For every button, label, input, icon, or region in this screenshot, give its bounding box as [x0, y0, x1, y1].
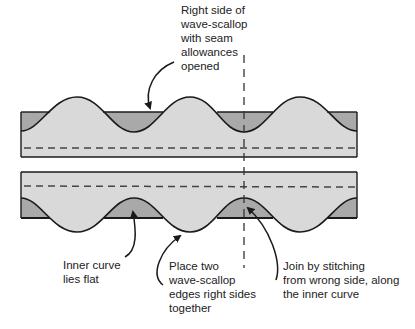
label-right-side: Right side of wave-scallop with seam all…	[181, 3, 247, 73]
label-join-stitching: Join by stitching from wrong side, along…	[283, 259, 399, 301]
label-inner-curve: Inner curve lies flat	[63, 258, 121, 286]
arrow-top	[148, 62, 174, 108]
bottom-strip	[21, 172, 357, 232]
label-place-edges: Place two wave-scallop edges right sides…	[169, 259, 256, 315]
top-strip	[21, 97, 357, 157]
